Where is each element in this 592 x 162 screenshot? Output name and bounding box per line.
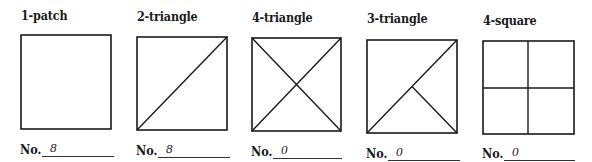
count-label: No. xyxy=(482,146,503,161)
count-underline xyxy=(42,156,114,157)
count-label: No. xyxy=(136,143,157,158)
count-underline xyxy=(273,158,342,159)
block-title: 4-triangle xyxy=(252,10,313,25)
count-row: No. 8 xyxy=(20,142,114,158)
count-value[interactable]: 8 xyxy=(166,141,173,157)
count-label: No. xyxy=(20,142,41,157)
count-underline xyxy=(158,157,230,158)
count-row: No. 0 xyxy=(366,146,460,162)
block-title: 1-patch xyxy=(21,8,67,23)
block-title: 4-square xyxy=(483,13,537,28)
block-title: 2-triangle xyxy=(137,9,198,24)
count-value[interactable]: 0 xyxy=(396,144,403,160)
count-underline xyxy=(504,160,575,161)
four-square-diagram xyxy=(482,40,575,135)
count-label: No. xyxy=(366,146,387,161)
count-underline xyxy=(388,160,460,161)
three-triangle-square-diagram xyxy=(366,39,458,134)
count-value[interactable]: 8 xyxy=(50,140,57,156)
count-label: No. xyxy=(251,144,272,159)
block-title: 3-triangle xyxy=(367,11,428,26)
four-triangle-square-diagram xyxy=(251,37,342,132)
count-value[interactable]: 0 xyxy=(512,144,519,160)
count-row: No. 8 xyxy=(136,143,230,159)
one-patch-square-diagram xyxy=(20,34,112,130)
count-value[interactable]: 0 xyxy=(281,142,288,158)
two-triangle-square-diagram xyxy=(136,36,228,131)
count-row: No. 0 xyxy=(251,144,342,160)
count-row: No. 0 xyxy=(482,146,575,162)
